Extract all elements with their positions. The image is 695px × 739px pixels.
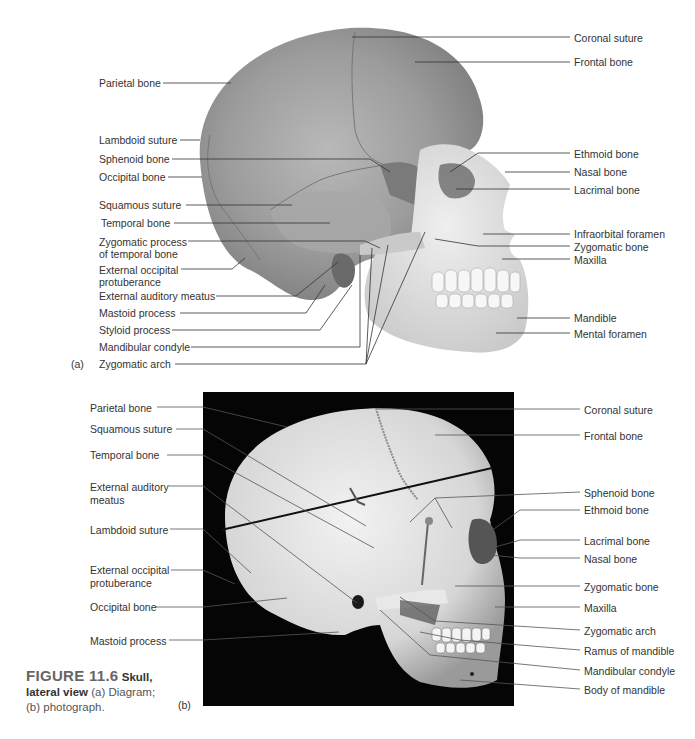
label-a-zygomatic-arch: Zygomatic arch xyxy=(99,358,171,370)
label-a-mental-foramen: Mental foramen xyxy=(574,328,647,340)
label-b-mastoid-process: Mastoid process xyxy=(90,635,166,647)
label-b-coronal-suture: Coronal suture xyxy=(584,404,653,416)
label-a-mastoid-process: Mastoid process xyxy=(99,307,175,319)
label-a-external-occipital-line2: protuberance xyxy=(99,276,161,288)
label-b-external-auditory-line1: External auditory xyxy=(90,481,169,493)
label-a-lambdoid-suture: Lambdoid suture xyxy=(99,134,177,146)
label-a-external-occipital-line1: External occipital xyxy=(99,264,178,276)
label-b-zygomatic-arch: Zygomatic arch xyxy=(584,625,656,637)
label-b-external-auditory-line2: meatus xyxy=(90,494,124,506)
label-b-body-of-mandible: Body of mandible xyxy=(584,684,665,696)
label-b-squamous-suture: Squamous suture xyxy=(90,423,172,435)
figure-number: FIGURE 11.6 xyxy=(26,667,119,684)
figure-title-part1: Skull, xyxy=(122,671,153,683)
panel-b-tag: (b) xyxy=(178,699,191,711)
label-a-infraorbital-foramen: Infraorbital foramen xyxy=(574,228,665,240)
label-b-maxilla: Maxilla xyxy=(584,602,617,614)
label-b-ramus-of-mandible: Ramus of mandible xyxy=(584,645,674,657)
label-b-sphenoid-bone: Sphenoid bone xyxy=(584,487,655,499)
label-a-occipital-bone: Occipital bone xyxy=(99,171,166,183)
label-a-mandibular-condyle: Mandibular condyle xyxy=(99,341,190,353)
label-b-nasal-bone: Nasal bone xyxy=(584,553,637,565)
label-b-external-occipital-line1: External occipital xyxy=(90,564,169,576)
label-a-frontal-bone: Frontal bone xyxy=(574,56,633,68)
figure-title-part2: lateral view xyxy=(26,686,88,698)
label-a-maxilla: Maxilla xyxy=(574,254,607,266)
figure-desc1: (a) Diagram; xyxy=(91,686,155,698)
label-a-mandible: Mandible xyxy=(574,312,617,324)
label-b-ethmoid-bone: Ethmoid bone xyxy=(584,504,649,516)
figure-caption: FIGURE 11.6 Skull, lateral view (a) Diag… xyxy=(26,668,176,715)
label-b-zygomatic-bone: Zygomatic bone xyxy=(584,581,659,593)
figure-desc2: (b) photograph. xyxy=(26,701,105,713)
label-a-nasal-bone: Nasal bone xyxy=(574,166,627,178)
label-b-lambdoid-suture: Lambdoid suture xyxy=(90,524,168,536)
label-a-zygomatic-bone: Zygomatic bone xyxy=(574,241,649,253)
label-a-sphenoid-bone: Sphenoid bone xyxy=(99,153,170,165)
label-a-zygomatic-process-line1: Zygomatic process xyxy=(99,236,187,248)
label-a-squamous-suture: Squamous suture xyxy=(99,199,181,211)
label-a-styloid-process: Styloid process xyxy=(99,324,170,336)
label-a-external-auditory-meatus: External auditory meatus xyxy=(99,290,215,302)
label-b-mandibular-condyle: Mandibular condyle xyxy=(584,665,675,677)
label-a-ethmoid-bone: Ethmoid bone xyxy=(574,148,639,160)
label-a-lacrimal-bone: Lacrimal bone xyxy=(574,184,640,196)
label-b-temporal-bone: Temporal bone xyxy=(90,449,159,461)
label-a-coronal-suture: Coronal suture xyxy=(574,32,643,44)
label-b-frontal-bone: Frontal bone xyxy=(584,430,643,442)
label-b-lacrimal-bone: Lacrimal bone xyxy=(584,535,650,547)
label-b-external-occipital-line2: protuberance xyxy=(90,577,152,589)
label-b-parietal-bone: Parietal bone xyxy=(90,402,152,414)
label-a-parietal-bone: Parietal bone xyxy=(99,77,161,89)
label-a-zygomatic-process-line2: of temporal bone xyxy=(99,248,178,260)
panel-a-tag: (a) xyxy=(71,358,84,370)
label-b-occipital-bone: Occipital bone xyxy=(90,601,157,613)
label-a-temporal-bone: Temporal bone xyxy=(101,217,170,229)
